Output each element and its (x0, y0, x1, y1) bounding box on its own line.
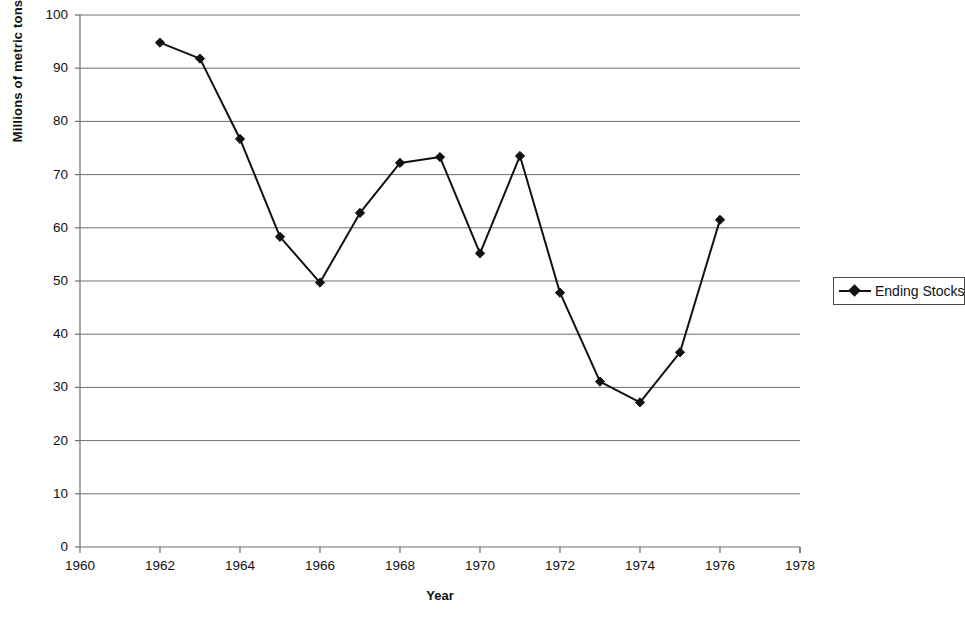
tick-marks (75, 15, 800, 553)
axis-lines (80, 15, 800, 553)
x-tick-label: 1962 (130, 559, 190, 573)
data-point-marker[interactable] (515, 151, 524, 160)
x-tick-label: 1978 (770, 559, 830, 573)
y-tick-label: 50 (28, 274, 68, 288)
data-point-marker[interactable] (235, 134, 244, 143)
x-tick-label: 1964 (210, 559, 270, 573)
y-tick-label: 60 (28, 221, 68, 235)
data-point-marker[interactable] (435, 152, 444, 161)
y-tick-label: 0 (28, 540, 68, 554)
gridlines (80, 15, 800, 494)
data-point-marker[interactable] (195, 54, 204, 63)
y-tick-label: 10 (28, 487, 68, 501)
x-tick-label: 1966 (290, 559, 350, 573)
y-axis-title: Millions of metric tons (10, 0, 36, 186)
y-tick-label: 40 (28, 327, 68, 341)
data-point-marker[interactable] (715, 215, 724, 224)
y-tick-label: 30 (28, 380, 68, 394)
x-axis-title: Year (340, 588, 540, 603)
y-tick-label: 100 (28, 8, 68, 22)
x-tick-label: 1976 (690, 559, 750, 573)
data-point-marker[interactable] (155, 38, 164, 47)
diamond-marker-icon (839, 284, 871, 298)
x-tick-label: 1968 (370, 559, 430, 573)
data-point-marker[interactable] (475, 249, 484, 258)
data-point-marker[interactable] (595, 377, 604, 386)
data-point-marker[interactable] (555, 288, 564, 297)
y-tick-label: 80 (28, 114, 68, 128)
legend-item-label: Ending Stocks (875, 283, 965, 299)
x-tick-label: 1972 (530, 559, 590, 573)
legend[interactable]: Ending Stocks (833, 277, 965, 305)
y-tick-label: 20 (28, 434, 68, 448)
y-tick-label: 90 (28, 61, 68, 75)
data-series-ending-stocks[interactable] (155, 38, 724, 407)
x-tick-label: 1974 (610, 559, 670, 573)
y-tick-label: 70 (28, 168, 68, 182)
x-tick-label: 1960 (50, 559, 110, 573)
x-tick-label: 1970 (450, 559, 510, 573)
